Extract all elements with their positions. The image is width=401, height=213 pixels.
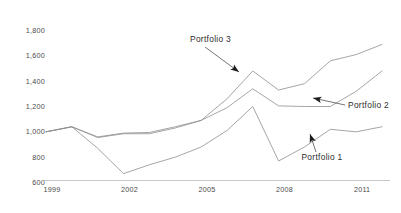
annotation-portfolio-1: Portfolio 1 bbox=[301, 133, 342, 162]
y-tick-label: 1,800 bbox=[26, 26, 45, 35]
y-axis-tick-labels: 1,8001,6001,4001,2001,000800600 bbox=[26, 26, 45, 187]
annotation-portfolio-2: Portfolio 2 bbox=[312, 95, 389, 110]
annotation-label: Portfolio 1 bbox=[301, 152, 342, 162]
x-tick-label: 1999 bbox=[44, 185, 61, 194]
annotation-arrow-icon bbox=[312, 95, 322, 103]
annotation-arrow-icon bbox=[307, 133, 316, 143]
series-line-3 bbox=[46, 44, 382, 136]
x-tick-label: 2002 bbox=[121, 185, 138, 194]
series-line-1 bbox=[46, 107, 382, 174]
series-line-2 bbox=[46, 71, 382, 138]
x-axis-tick-labels: 19992002200520082011 bbox=[44, 185, 371, 194]
y-tick-label: 1,400 bbox=[26, 77, 45, 86]
chart-canvas: 1,8001,6001,4001,2001,000800600 19992002… bbox=[0, 0, 401, 213]
x-tick-label: 2011 bbox=[354, 185, 370, 194]
annotation-label: Portfolio 2 bbox=[348, 100, 389, 110]
annotation-arrow-icon bbox=[230, 64, 241, 74]
y-tick-label: 1,000 bbox=[26, 127, 45, 136]
y-tick-label: 800 bbox=[32, 153, 45, 162]
y-tick-label: 1,600 bbox=[26, 51, 45, 60]
annotation-portfolio-3: Portfolio 3 bbox=[190, 34, 241, 75]
annotation-label: Portfolio 3 bbox=[190, 34, 231, 44]
x-tick-label: 2005 bbox=[199, 185, 216, 194]
line-chart: 1,8001,6001,4001,2001,000800600 19992002… bbox=[0, 0, 401, 213]
x-tick-label: 2008 bbox=[276, 185, 293, 194]
y-tick-label: 1,200 bbox=[26, 102, 45, 111]
